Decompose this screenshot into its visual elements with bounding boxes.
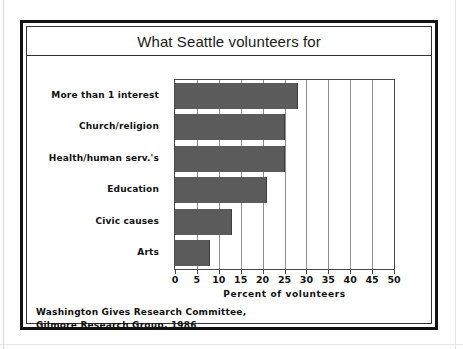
x-axis-tick-label: 45	[365, 274, 378, 285]
chart-title: What Seattle volunteers for	[137, 33, 321, 50]
x-axis-tick-label: 5	[194, 274, 201, 285]
scan-edge-left	[3, 0, 4, 349]
bar	[175, 209, 232, 235]
x-axis-tick-label: 35	[322, 274, 335, 285]
bar-slot	[175, 175, 394, 207]
source-line-1: Washington Gives Research Committee,	[36, 306, 246, 319]
category-label: More than 1 interest	[27, 79, 167, 111]
scan-edge-bottom	[0, 344, 463, 345]
bar-slot	[175, 206, 394, 238]
x-axis-tick-label: 10	[212, 274, 225, 285]
x-axis-tick-label: 50	[387, 274, 400, 285]
plot-area	[174, 79, 395, 270]
bar	[175, 83, 298, 109]
bar	[175, 114, 285, 140]
bar-slot	[175, 238, 394, 270]
bar-slot	[175, 112, 394, 144]
category-label: Education	[27, 174, 167, 206]
x-axis-tick-label: 40	[344, 274, 357, 285]
x-axis-tick-label: 20	[256, 274, 269, 285]
category-label: Health/human serv.'s	[27, 142, 167, 174]
x-axis-tick-label: 25	[278, 274, 291, 285]
x-axis-tick-labels: 05101520253035404550	[174, 274, 395, 288]
title-band: What Seattle volunteers for	[27, 27, 431, 56]
x-axis-tick-label: 30	[300, 274, 313, 285]
bar-series	[175, 80, 394, 269]
source-note: Washington Gives Research Committee, Gil…	[36, 306, 246, 331]
category-axis-labels: More than 1 interest Church/religion Hea…	[27, 79, 167, 268]
figure-page: What Seattle volunteers for More than 1 …	[0, 0, 463, 349]
category-label: Arts	[27, 237, 167, 269]
x-axis-tick-label: 0	[172, 274, 179, 285]
bar-slot	[175, 80, 394, 112]
x-axis-title: Percent of volunteers	[174, 289, 395, 299]
category-label: Church/religion	[27, 111, 167, 143]
chart-area: More than 1 interest Church/religion Hea…	[27, 56, 431, 324]
bar-slot	[175, 143, 394, 175]
bar	[175, 146, 285, 172]
bar	[175, 177, 267, 203]
scan-edge-right	[455, 0, 456, 349]
x-axis-tick-label: 15	[234, 274, 247, 285]
category-label: Civic causes	[27, 205, 167, 237]
bar	[175, 240, 210, 266]
source-line-2: Gilmore Research Group, 1986	[36, 319, 246, 332]
